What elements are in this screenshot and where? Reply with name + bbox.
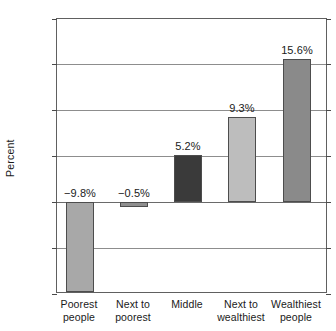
gridline--5 (57, 248, 326, 249)
y-tick-10 (326, 110, 331, 111)
y-tick--5 (326, 248, 331, 249)
y-tick-15 (52, 64, 57, 65)
y-tick--10 (52, 294, 57, 295)
bar-3 (228, 117, 256, 202)
bar-chart: Percent 20151050−5−10 −9.8%−0.5%5.2%9.3%… (0, 0, 336, 331)
value-label-3: 9.3% (212, 102, 272, 114)
bar-4 (283, 59, 311, 202)
y-tick-15 (326, 64, 331, 65)
bar-0 (66, 202, 94, 292)
y-tick-5 (52, 156, 57, 157)
value-label-1: −0.5% (104, 187, 164, 199)
y-axis-title: Percent (3, 128, 17, 188)
y-tick-10 (52, 110, 57, 111)
y-tick--10 (326, 294, 331, 295)
y-tick-0 (52, 202, 57, 203)
y-tick-20 (52, 19, 57, 20)
bar-2 (174, 155, 202, 203)
y-tick-5 (326, 156, 331, 157)
value-label-2: 5.2% (158, 140, 218, 152)
bar-1 (120, 202, 148, 207)
y-tick--5 (52, 248, 57, 249)
value-label-0: −9.8% (50, 187, 110, 199)
y-tick-0 (326, 202, 331, 203)
value-label-4: 15.6% (267, 44, 327, 56)
x-category-label-4: Wealthiest people (264, 298, 328, 324)
plot-area: −9.8%−0.5%5.2%9.3%15.6% (56, 18, 327, 293)
y-tick-20 (326, 19, 331, 20)
